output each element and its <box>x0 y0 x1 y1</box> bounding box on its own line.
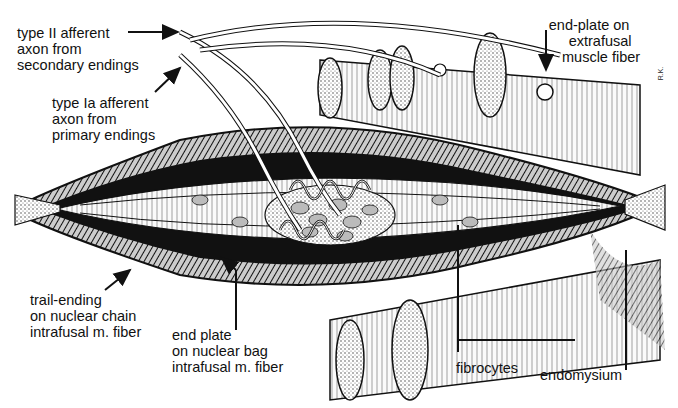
label-trail-ending: trail-ending on nuclear chain intrafusal… <box>30 292 141 340</box>
label-line: type II afferent <box>17 25 139 41</box>
label-line: fibrocytes <box>456 360 518 376</box>
label-line: primary endings <box>52 127 155 143</box>
label-line: intrafusal m. fiber <box>172 359 283 375</box>
label-type-ia-afferent-axon: type Ia afferent axon from primary endin… <box>52 95 155 143</box>
label-line: intrafusal m. fiber <box>30 324 141 340</box>
label-line: type Ia afferent <box>52 95 155 111</box>
label-line: end-plate on <box>538 17 640 33</box>
label-fibrocytes: fibrocytes <box>456 360 518 376</box>
label-endomysium: endomysium <box>540 367 622 383</box>
label-line: trail-ending <box>30 292 141 308</box>
label-line: endomysium <box>540 367 622 383</box>
label-line: extrafusal <box>560 33 640 49</box>
label-line: axon from <box>52 111 155 127</box>
label-line: end plate <box>172 327 283 343</box>
label-line: axon from <box>17 41 139 57</box>
artist-initials: R.K. <box>657 67 664 81</box>
label-end-plate-nuclear-bag: end plate on nuclear bag intrafusal m. f… <box>172 327 283 375</box>
label-line: on nuclear chain <box>30 308 141 324</box>
label-line: secondary endings <box>17 57 139 73</box>
label-line: muscle fiber <box>562 49 640 65</box>
label-end-plate-extrafusal: end-plate on extrafusal muscle fiber <box>540 17 640 65</box>
label-type-ii-afferent-axon: type II afferent axon from secondary end… <box>17 25 139 73</box>
label-line: on nuclear bag <box>172 343 283 359</box>
